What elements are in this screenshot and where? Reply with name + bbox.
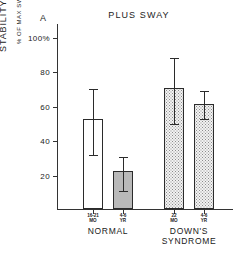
y-tick-label: 60	[40, 102, 50, 111]
y-axis-title: STABILITY INDEX	[0, 0, 8, 52]
error-cap-upper-normal-16-21-mo	[89, 89, 98, 90]
figure-panel-a: A PLUS SWAY STABILITY INDEX % OF MAX SWA…	[0, 0, 250, 253]
error-cap-lower-downs-22-mo	[170, 124, 179, 125]
group-label-down-s: DOWN'SSYNDROME	[162, 226, 217, 246]
y-tick-label: 80	[40, 68, 50, 77]
group-label-line2: SYNDROME	[162, 236, 217, 246]
error-bar-downs-22-mo	[174, 58, 175, 123]
y-tick-label: 40	[40, 137, 50, 146]
plot-area: 100%80604020	[57, 24, 233, 210]
category-label-line2: MO	[87, 218, 99, 223]
y-tick-60	[53, 107, 58, 108]
category-label-downs-22-mo: 22MO	[170, 213, 177, 223]
category-label-downs-4-6-yr: 4-6YR	[201, 213, 208, 223]
y-tick-20	[53, 176, 58, 177]
group-label-line1: NORMAL	[88, 226, 129, 236]
category-label-normal-16-21-mo: 16-21MO	[87, 213, 99, 223]
y-tick-label: 100%	[28, 33, 50, 42]
group-label-line1: DOWN'S	[162, 226, 217, 236]
x-axis-line	[57, 209, 233, 210]
error-cap-lower-downs-4-6-yr	[200, 119, 209, 120]
error-cap-upper-downs-22-mo	[170, 58, 179, 59]
group-label-normal: NORMAL	[88, 226, 129, 236]
error-cap-lower-normal-16-21-mo	[89, 155, 98, 156]
y-tick-80	[53, 72, 58, 73]
error-cap-lower-normal-4-6-yr	[119, 191, 128, 192]
y-tick-100	[53, 38, 58, 39]
category-label-line2: YR	[120, 218, 127, 223]
category-label-line2: YR	[201, 218, 208, 223]
y-tick-label: 20	[40, 171, 50, 180]
y-axis-subtitle: % OF MAX SWAY	[16, 0, 22, 44]
chart-title: PLUS SWAY	[0, 10, 250, 20]
category-label-line2: MO	[170, 218, 177, 223]
y-axis-line	[57, 24, 58, 210]
error-cap-upper-downs-4-6-yr	[200, 91, 209, 92]
error-cap-upper-normal-4-6-yr	[119, 157, 128, 158]
error-bar-normal-16-21-mo	[93, 89, 94, 154]
error-bar-downs-4-6-yr	[204, 91, 205, 119]
y-tick-40	[53, 141, 58, 142]
error-bar-normal-4-6-yr	[123, 157, 124, 191]
category-label-normal-4-6-yr: 4-6YR	[120, 213, 127, 223]
